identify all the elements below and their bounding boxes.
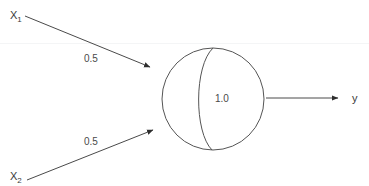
diagram-canvas: X1 X2 0.5 0.5 1.0 y xyxy=(0,0,369,186)
input-label-x1: X1 xyxy=(10,9,22,24)
input-label-x2-subscript: 2 xyxy=(17,176,22,185)
neuron-circle xyxy=(162,48,264,150)
input-label-x2: X2 xyxy=(10,170,22,185)
input-label-x1-subscript: 1 xyxy=(17,15,22,24)
weight-label-x2: 0.5 xyxy=(84,136,98,147)
neuron-meridian-arc xyxy=(199,48,213,150)
output-label-y: y xyxy=(352,92,358,104)
neural-network-diagram: X1 X2 0.5 0.5 1.0 y xyxy=(0,0,369,186)
neuron-bias-label: 1.0 xyxy=(215,93,229,104)
weight-label-x1: 0.5 xyxy=(84,53,98,64)
